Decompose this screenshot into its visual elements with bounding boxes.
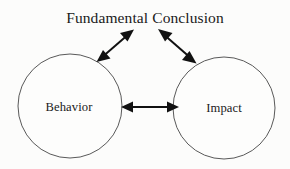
connector-shaft (104, 36, 127, 56)
connector-shaft (166, 36, 190, 57)
arrowhead-left (121, 102, 133, 113)
diagram-title: Fundamental Conclusion (66, 9, 224, 26)
node-label-behavior: Behavior (46, 100, 94, 114)
connector-behavior-impact[interactable] (121, 102, 179, 113)
connector-behavior-conclusion[interactable] (97, 30, 135, 63)
diagram-canvas: Fundamental Conclusion Behavior Impact (0, 0, 290, 169)
node-label-impact: Impact (206, 101, 242, 115)
diagram-figure: Fundamental Conclusion Behavior Impact (0, 0, 290, 169)
connector-conclusion-impact[interactable] (158, 29, 197, 64)
